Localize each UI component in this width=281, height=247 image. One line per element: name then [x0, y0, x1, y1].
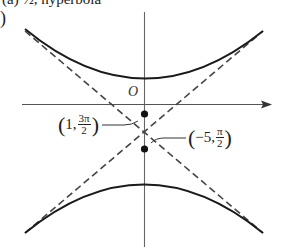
coord-r: −5,	[195, 129, 215, 146]
point-label-lower: ( −5, π 2 )	[188, 126, 232, 149]
hyperbola-plot	[0, 0, 281, 247]
vertex-lower-point	[141, 145, 148, 152]
point-label-upper: ( 1, 3π 2 )	[58, 113, 99, 136]
paren-close: )	[92, 115, 99, 135]
leader-line-lower	[151, 138, 186, 143]
fraction-denominator: 2	[217, 138, 223, 149]
fraction-denominator: 2	[81, 125, 87, 136]
paren-open: (	[188, 128, 195, 148]
leader-line-upper	[102, 121, 138, 125]
paren-open: (	[58, 115, 65, 135]
fraction-theta: π 2	[216, 126, 224, 149]
vertex-upper-point	[141, 110, 148, 117]
paren-close: )	[225, 128, 232, 148]
coord-r: 1,	[65, 116, 76, 133]
origin-label: O	[128, 84, 138, 100]
fraction-theta: 3π 2	[78, 113, 91, 136]
